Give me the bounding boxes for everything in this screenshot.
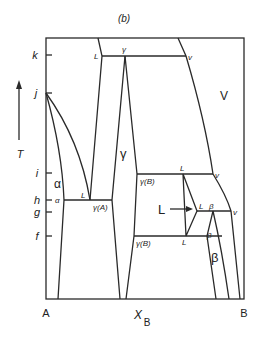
point-i-v: v [215, 171, 220, 180]
point-h-gammaA: γ(A) [93, 203, 108, 212]
liquid-arrow-head [186, 206, 193, 212]
left-end-label: A [42, 307, 50, 319]
point-f-gammaB: γ(B) [136, 239, 151, 248]
vapor-boundary [178, 38, 240, 299]
phase-diagram: (b) k j i h g f T A B X B α γ V L β L γ … [0, 0, 260, 339]
axis-x-label: X [133, 308, 143, 322]
gamma-right-boundary [125, 56, 137, 299]
point-h-alpha: α [55, 196, 60, 205]
region-beta: β [211, 250, 218, 265]
right-end-label: B [240, 307, 247, 319]
axis-y-label: T [17, 148, 25, 160]
liquid-left-boundary [90, 38, 102, 200]
point-h-L: L [81, 191, 85, 200]
point-k-gamma: γ [122, 45, 127, 54]
temperature-arrow-head [16, 80, 22, 89]
point-g-v: v [233, 208, 238, 217]
axis-x-subscript: B [144, 317, 151, 328]
region-alpha: α [54, 177, 61, 191]
tick-label-j: j [33, 87, 38, 99]
gamma-left-boundary [112, 56, 125, 299]
liquid-pocket [183, 174, 197, 236]
tick-label-i: i [36, 167, 39, 179]
tick-label-g: g [34, 206, 41, 218]
point-g-L: L [199, 202, 203, 211]
tick-label-f: f [35, 230, 39, 242]
panel-label: (b) [118, 13, 130, 24]
point-f-L: L [182, 238, 186, 247]
region-vapor: V [220, 89, 228, 103]
point-k-L: L [94, 52, 98, 61]
region-liquid: L [158, 202, 165, 217]
point-i-gammaB: γ(B) [140, 177, 155, 186]
tick-label-k: k [32, 49, 38, 61]
region-gamma: γ [120, 146, 127, 161]
point-g-beta: β [208, 202, 214, 211]
alpha-liquidus [46, 93, 90, 200]
tick-label-h: h [34, 194, 40, 206]
point-k-v: v [188, 53, 193, 62]
point-f-beta: β [206, 231, 212, 240]
point-i-L: L [180, 164, 184, 173]
